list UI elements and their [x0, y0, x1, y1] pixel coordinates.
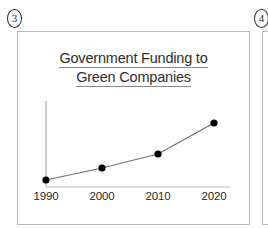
step-marker-three: 3 — [7, 9, 22, 28]
x-tick-label-2000: 2000 — [79, 190, 125, 203]
data-point-2020 — [210, 119, 217, 126]
step-marker-four: 4 — [254, 9, 268, 28]
data-point-2010 — [154, 150, 161, 157]
chart-panel: Government Funding to Green Companies 19… — [17, 31, 250, 225]
data-point-1990 — [42, 176, 49, 183]
x-tick-label-2020: 2020 — [191, 190, 237, 203]
x-tick-label-1990: 1990 — [23, 190, 69, 203]
next-panel-partial — [262, 31, 268, 225]
x-tick-label-2010: 2010 — [135, 190, 181, 203]
data-line — [46, 123, 214, 180]
data-point-2000 — [98, 164, 105, 171]
